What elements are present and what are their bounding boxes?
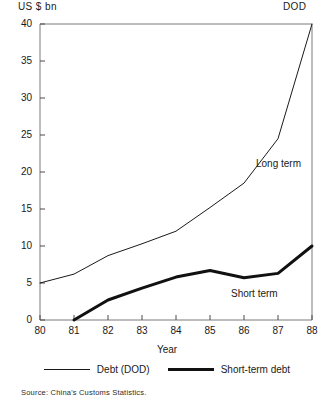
legend-item: Debt (DOD) — [44, 364, 150, 375]
y-axis-tick-label: 15 — [6, 204, 32, 214]
y-axis-tick-label: 30 — [6, 93, 32, 103]
chart-figure: US $ bn DOD 0510152025303540 80818283848… — [0, 0, 334, 404]
x-axis-tick-label: 80 — [28, 326, 52, 336]
y-axis-tick-label: 25 — [6, 130, 32, 140]
chart-legend: Debt (DOD)Short-term debt — [0, 364, 334, 375]
x-axis-tick-label: 84 — [164, 326, 188, 336]
series-line-debt-dod — [40, 24, 312, 283]
source-note: Source: China's Customs Statistics. — [21, 388, 147, 397]
x-axis-tick-label: 88 — [300, 326, 324, 336]
x-axis-tick-label: 87 — [266, 326, 290, 336]
annotation-long-term: Long term — [256, 158, 301, 169]
y-axis-tick-label: 35 — [6, 56, 32, 66]
legend-swatch-icon — [168, 368, 214, 371]
series-line-short-term-debt — [74, 246, 312, 320]
annotation-short-term: Short term — [231, 288, 278, 299]
legend-item: Short-term debt — [168, 364, 290, 375]
y-axis-tick-label: 40 — [6, 19, 32, 29]
x-axis-tick-label: 86 — [232, 326, 256, 336]
legend-label: Debt (DOD) — [97, 364, 150, 375]
y-axis-tick-label: 10 — [6, 241, 32, 251]
legend-label: Short-term debt — [221, 364, 290, 375]
y-axis-tick-label: 20 — [6, 167, 32, 177]
x-axis-tick-label: 81 — [62, 326, 86, 336]
x-axis-title: Year — [0, 344, 334, 355]
x-axis-tick-label: 83 — [130, 326, 154, 336]
legend-swatch-icon — [44, 369, 90, 370]
y-axis-tick-label: 0 — [6, 315, 32, 325]
y-axis-tick-marks — [40, 24, 45, 320]
x-axis-tick-label: 82 — [96, 326, 120, 336]
y-axis-tick-label: 5 — [6, 278, 32, 288]
x-axis-tick-label: 85 — [198, 326, 222, 336]
